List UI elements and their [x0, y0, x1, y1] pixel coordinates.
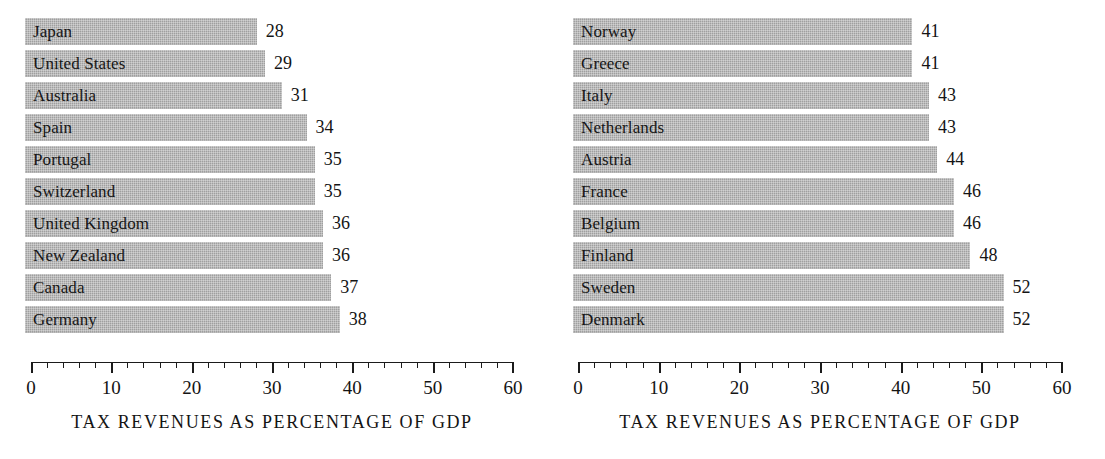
bar-row: Spain34	[0, 114, 552, 146]
bar-value-label: 28	[266, 18, 284, 45]
x-axis-major-tick	[578, 362, 580, 373]
x-axis-minor-tick	[160, 362, 161, 368]
bar-row: United States29	[0, 50, 552, 82]
axis-caption-left: TAX REVENUES AS PERCENTAGE OF GDP	[19, 412, 525, 433]
x-axis-major-tick	[512, 362, 514, 373]
bar-value-label: 38	[349, 306, 367, 333]
x-axis-minor-tick	[755, 362, 756, 368]
x-axis-minor-tick	[1046, 362, 1047, 368]
bar-value-label: 46	[963, 210, 981, 237]
bar-category-label: Switzerland	[25, 178, 115, 205]
x-axis-minor-tick	[127, 362, 128, 368]
x-axis-tick-label: 0	[573, 377, 583, 399]
x-axis-minor-tick	[208, 362, 209, 368]
bar	[573, 274, 1004, 301]
bar-category-label: Denmark	[573, 306, 645, 333]
bar-category-label: Italy	[573, 82, 613, 109]
x-axis-tick-label: 50	[423, 377, 442, 399]
x-axis-minor-tick	[481, 362, 482, 368]
x-axis-minor-tick	[933, 362, 934, 368]
bar-value-label: 35	[324, 178, 342, 205]
bar-value-label: 31	[291, 82, 309, 109]
bar-row: New Zealand36	[0, 242, 552, 274]
x-axis-minor-tick	[417, 362, 418, 368]
x-axis-minor-tick	[852, 362, 853, 368]
x-axis-tick-label: 20	[182, 377, 201, 399]
x-axis-minor-tick	[176, 362, 177, 368]
bar-row: Greece41	[552, 50, 1104, 82]
bar	[573, 178, 954, 205]
bar-category-label: Greece	[573, 50, 630, 77]
x-axis-minor-tick	[885, 362, 886, 368]
x-axis-minor-tick	[643, 362, 644, 368]
bar-row: Sweden52	[552, 274, 1104, 306]
bar-value-label: 52	[1013, 306, 1031, 333]
x-axis-minor-tick	[368, 362, 369, 368]
bar-value-label: 52	[1013, 274, 1031, 301]
bar-category-label: Finland	[573, 242, 634, 269]
x-axis-major-tick	[1061, 362, 1063, 373]
bar-row: Japan28	[0, 18, 552, 50]
x-axis-minor-tick	[707, 362, 708, 368]
x-axis-major-tick	[433, 362, 435, 373]
x-axis-minor-tick	[1030, 362, 1031, 368]
bar-row: Canada37	[0, 274, 552, 306]
bar-row: Portugal35	[0, 146, 552, 178]
x-axis-major-tick	[820, 362, 822, 373]
bar-row: Australia31	[0, 82, 552, 114]
bar-value-label: 35	[324, 146, 342, 173]
x-axis-major-tick	[192, 362, 194, 373]
bar-row: Italy43	[552, 82, 1104, 114]
bar-value-label: 43	[938, 82, 956, 109]
x-axis-tick-label: 10	[102, 377, 121, 399]
bar-category-label: Sweden	[573, 274, 635, 301]
x-axis-minor-tick	[788, 362, 789, 368]
bar-category-label: Canada	[25, 274, 85, 301]
x-axis-minor-tick	[240, 362, 241, 368]
x-axis-minor-tick	[804, 362, 805, 368]
bar-category-label: Norway	[573, 18, 636, 45]
x-axis-major-tick	[901, 362, 903, 373]
bar-value-label: 43	[938, 114, 956, 141]
bar-row: Finland48	[552, 242, 1104, 274]
bar-row: Switzerland35	[0, 178, 552, 210]
bar-category-label: Belgium	[573, 210, 640, 237]
x-axis-tick-label: 40	[343, 377, 362, 399]
bar-category-label: Germany	[25, 306, 97, 333]
bar-category-label: France	[573, 178, 628, 205]
x-axis-minor-tick	[965, 362, 966, 368]
x-axis-minor-tick	[497, 362, 498, 368]
x-axis-minor-tick	[594, 362, 595, 368]
x-axis-minor-tick	[836, 362, 837, 368]
x-axis-major-tick	[272, 362, 274, 373]
bar-category-label: Portugal	[25, 146, 91, 173]
bar-value-label: 48	[979, 242, 997, 269]
x-axis-minor-tick	[675, 362, 676, 368]
x-axis-minor-tick	[465, 362, 466, 368]
x-axis-tick-label: 30	[811, 377, 830, 399]
x-axis-minor-tick	[256, 362, 257, 368]
bar-category-label: Japan	[25, 18, 72, 45]
x-axis-major-tick	[352, 362, 354, 373]
x-axis-minor-tick	[79, 362, 80, 368]
x-axis-minor-tick	[610, 362, 611, 368]
x-axis-tick-label: 50	[972, 377, 991, 399]
x-axis-major-tick	[31, 362, 33, 373]
x-axis-major-tick	[111, 362, 113, 373]
x-axis-minor-tick	[723, 362, 724, 368]
x-axis-tick-label: 60	[1053, 377, 1072, 399]
x-axis-minor-tick	[691, 362, 692, 368]
bar-group-left: Japan28United States29Australia31Spain34…	[0, 18, 552, 338]
axis-caption-right: TAX REVENUES AS PERCENTAGE OF GDP	[566, 412, 1074, 433]
chart-panel-left: Japan28United States29Australia31Spain34…	[0, 0, 552, 459]
x-axis-minor-tick	[772, 362, 773, 368]
chart-panel-right: Norway41Greece41Italy43Netherlands43Aust…	[552, 0, 1104, 459]
bar-value-label: 41	[921, 18, 939, 45]
bar-value-label: 36	[332, 210, 350, 237]
bar-category-label: Netherlands	[573, 114, 664, 141]
bar-value-label: 29	[274, 50, 292, 77]
x-axis-minor-tick	[320, 362, 321, 368]
x-axis-tick-label: 10	[649, 377, 668, 399]
x-axis-minor-tick	[401, 362, 402, 368]
bar-row: Germany38	[0, 306, 552, 338]
